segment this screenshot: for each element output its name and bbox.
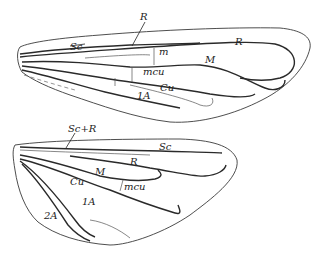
forewing-label-sc: Sc [70,41,83,52]
hindwing-label-2a: 2A [43,210,58,221]
forewing-label-mcu: mcu [143,66,165,77]
hindwing-label-1a: 1A [82,196,96,207]
hindwing-label-cu: Cu [70,176,84,187]
hindwing-label-mcu: mcu [124,181,146,192]
forewing-rs-vein [85,55,150,58]
hindwing-mcu-crossvein [120,180,123,191]
forewing-label-r-top: R [139,11,148,22]
hindwing-scr-vein [20,147,222,153]
forewing-label-rm: m [159,46,168,57]
forewing-r-leader [132,22,145,46]
wing-venation-diagram: R Sc R m M mcu Cu 1A Sc+R Sc R M Cu mcu … [0,0,318,253]
forewing-label-cu: Cu [160,82,174,93]
hindwing-outline [13,139,237,245]
forewing-label-1a: 1A [137,90,151,101]
hindwing-label-sc: Sc [159,141,172,152]
hindwing-label-m: M [94,166,106,177]
forewing-label-m: M [204,54,216,65]
hindwing-label-scr: Sc+R [68,123,97,134]
hindwing-r-vein [70,156,226,176]
forewing-label-r: R [234,36,243,47]
hindwing-3a-vein [90,220,130,238]
forewing-sc-vein [20,43,200,54]
hindwing-label-r: R [129,156,138,167]
